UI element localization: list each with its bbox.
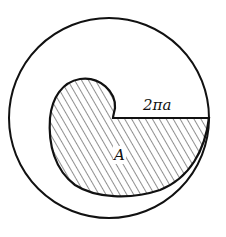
spiral-area-diagram: 2πa A (0, 0, 226, 237)
spiral-region (50, 79, 209, 197)
diagram-canvas (0, 0, 226, 237)
radius-label: 2πa (143, 96, 171, 114)
area-label: A (113, 146, 126, 164)
